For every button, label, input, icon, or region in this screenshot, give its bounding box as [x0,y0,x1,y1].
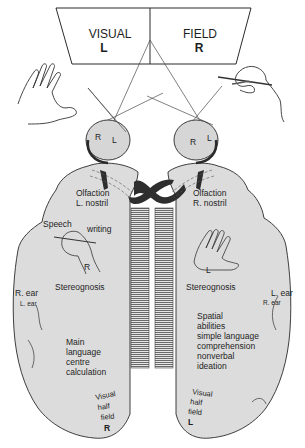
left-nostril-label: L. nostril [76,198,108,208]
visual-field-right-letter: R [195,41,204,55]
visual-label: VISUAL [89,27,132,41]
left-ear-secondary-label: L. ear [20,300,37,307]
left-stereognosis-label: Stereognosis [55,282,105,292]
right-visual-half-field-side: L [188,417,193,427]
right-function-line-6: ideation [197,361,227,371]
right-stereognosis-label: Stereognosis [186,282,236,292]
left-function-line-4: calculation [66,367,106,377]
right-ear-primary-label: L. ear [271,288,293,298]
left-function-line-2: language [66,347,101,357]
left-function-line-3: centre [66,357,90,367]
right-function-line-1: Spatial [197,311,223,321]
left-ear-primary-label: R. ear [15,288,38,298]
right-function-line-2: abilities [197,321,225,331]
right-function-line-3: simple language [197,331,259,341]
right-nostril-label: R. nostril [193,198,227,208]
left-visual-half-field-side: R [104,423,110,433]
right-ear-secondary-label: R. ear [263,299,282,306]
right-eye: R L [174,120,218,163]
right-eye-retina-l: L [207,133,212,143]
left-hand-icon [18,64,76,124]
writing-label: writing [86,224,112,234]
right-eye-retina-r: R [190,137,196,147]
left-visual-half-field-3: field [100,412,115,422]
writing-hand-icon [218,66,284,122]
right-olfaction-label: Olfaction [193,188,227,198]
left-eye-retina-r: R [95,132,101,142]
right-visual-half-field-3: field [188,407,202,417]
corpus-callosum [131,208,173,368]
visual-field-screen: VISUAL L FIELD R [56,8,251,64]
split-brain-diagram: VISUAL L FIELD R [0,0,305,448]
left-visual-half-field-2: half [97,401,111,412]
left-eye-retina-l: L [112,135,117,145]
left-function-line-1: Main [66,337,85,347]
right-hand-label: R [84,262,90,272]
right-function-line-5: nonverbal [197,351,234,361]
right-visual-half-field-2: half [190,397,204,407]
field-label: FIELD [183,27,217,41]
visual-field-left-letter: L [100,41,107,55]
right-function-line-4: comprehension [197,341,255,351]
left-olfaction-label: Olfaction [76,188,110,198]
left-hand-label: L [206,265,211,275]
speech-label: Speech [43,219,72,229]
